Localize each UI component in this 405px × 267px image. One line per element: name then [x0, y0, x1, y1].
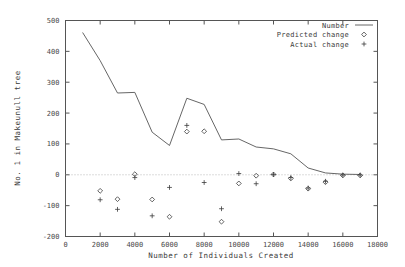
- predicted-change-marker: [362, 32, 367, 37]
- predicted-change-marker: [254, 173, 259, 178]
- x-tick-label: 0: [63, 241, 67, 249]
- x-tick-label: 12000: [263, 241, 284, 249]
- y-tick-label: 400: [47, 48, 60, 56]
- line-chart: -200-1000100200300400500 020004000600080…: [0, 0, 405, 267]
- y-axis-label: No. 1 in Makeunull tree: [13, 70, 22, 185]
- y-tick-label: 500: [47, 17, 60, 25]
- plot-frame: [66, 21, 378, 237]
- x-tick-label: 8000: [196, 241, 213, 249]
- x-tick-label: 10000: [228, 241, 249, 249]
- x-tick-label: 14000: [298, 241, 319, 249]
- y-tick-label: -100: [43, 202, 60, 210]
- predicted-change-marker: [236, 181, 241, 186]
- y-tick-label: 200: [47, 110, 60, 118]
- legend-label-1: Predicted change: [277, 31, 349, 39]
- legend-label-2: Actual change: [290, 41, 349, 49]
- y-tick-label: 0: [55, 171, 59, 179]
- x-tick-label: 18000: [367, 241, 388, 249]
- y-tick-label: -200: [43, 233, 60, 241]
- legend: NumberPredicted changeActual change: [277, 22, 373, 49]
- predicted-change-marker: [202, 129, 207, 134]
- chart-container: -200-1000100200300400500 020004000600080…: [0, 0, 405, 267]
- series-actual-change-markers: [98, 123, 363, 218]
- predicted-change-marker: [184, 129, 189, 134]
- legend-label-0: Number: [322, 22, 349, 30]
- y-tick-label: 100: [47, 140, 60, 148]
- x-axis-label: Number of Individuals Created: [148, 251, 293, 260]
- y-tick-label: 300: [47, 79, 60, 87]
- predicted-change-marker: [219, 219, 224, 224]
- x-tick-label: 16000: [332, 241, 353, 249]
- x-tick-label: 2000: [92, 241, 109, 249]
- series-number-line: [83, 33, 360, 175]
- number-line-path: [83, 33, 360, 175]
- y-axis-ticks: -200-1000100200300400500: [43, 17, 378, 241]
- x-axis-ticks: 0200040006000800010000120001400016000180…: [63, 21, 388, 249]
- predicted-change-marker: [115, 197, 120, 202]
- series-predicted-change-markers: [98, 129, 363, 224]
- predicted-change-marker: [150, 197, 155, 202]
- x-tick-label: 4000: [126, 241, 143, 249]
- x-tick-label: 6000: [161, 241, 178, 249]
- predicted-change-marker: [98, 188, 103, 193]
- predicted-change-marker: [167, 214, 172, 219]
